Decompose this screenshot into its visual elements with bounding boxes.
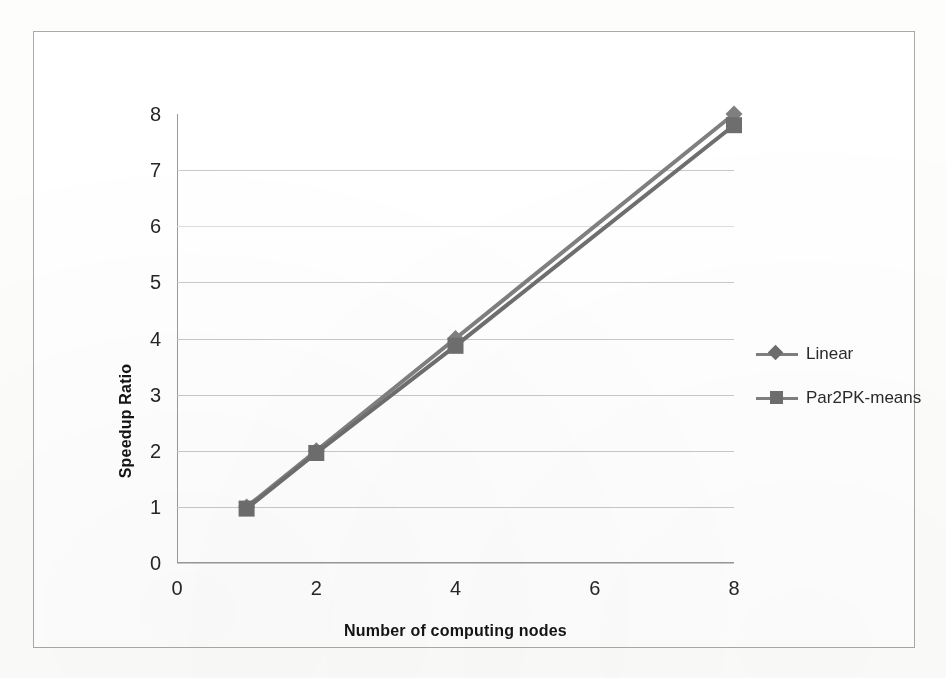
figure-frame: Speedup Ratio 012345678 02468 Number of …: [33, 31, 915, 648]
x-tick-label-6: 6: [575, 577, 615, 600]
y-tick-label-7: 7: [131, 159, 161, 182]
y-tick-label-0: 0: [131, 552, 161, 575]
y-tick-label-3: 3: [131, 383, 161, 406]
x-axis-tick-labels: 02468: [177, 577, 734, 607]
y-tick-label-8: 8: [131, 103, 161, 126]
y-axis-tick-labels: 012345678: [131, 114, 161, 563]
gridline-y-0: [177, 563, 734, 564]
data-point-marker: [448, 338, 464, 354]
data-point-marker: [308, 445, 324, 461]
y-axis-title-container: Speedup Ratio: [34, 202, 134, 402]
diamond-marker-icon: [756, 346, 798, 362]
plot-area: [177, 114, 734, 563]
legend-label: Par2PK-means: [806, 388, 921, 408]
legend-label: Linear: [806, 344, 853, 364]
scanned-page: Speedup Ratio 012345678 02468 Number of …: [0, 0, 946, 678]
x-tick-label-4: 4: [436, 577, 476, 600]
series-plot: [177, 114, 734, 563]
legend-entry-par2pk-means[interactable]: Par2PK-means: [756, 376, 936, 420]
y-tick-label-2: 2: [131, 439, 161, 462]
data-point-marker: [239, 501, 255, 517]
x-tick-label-2: 2: [296, 577, 336, 600]
square-marker-icon: [756, 390, 798, 406]
data-point-marker: [726, 117, 742, 133]
legend-entry-linear[interactable]: Linear: [756, 332, 936, 376]
x-tick-label-8: 8: [714, 577, 754, 600]
y-tick-label-1: 1: [131, 495, 161, 518]
x-tick-label-0: 0: [157, 577, 197, 600]
y-tick-label-4: 4: [131, 327, 161, 350]
y-tick-label-6: 6: [131, 215, 161, 238]
chart-legend: LinearPar2PK-means: [756, 332, 936, 420]
x-axis-title: Number of computing nodes: [177, 622, 734, 640]
y-tick-label-5: 5: [131, 271, 161, 294]
